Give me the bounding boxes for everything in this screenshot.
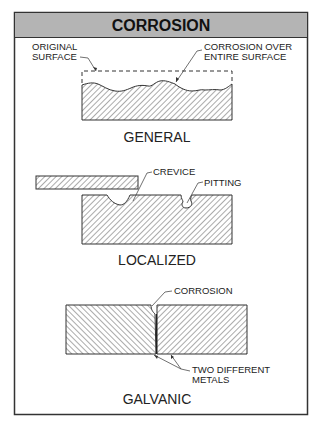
metal-b-block	[157, 305, 247, 354]
top-plate	[36, 176, 138, 189]
diagram-title: CORROSION	[112, 17, 211, 34]
corrosion-diagram: CORROSION ORIGINAL SURFACE CORROSION OVE…	[0, 0, 316, 431]
label-pitting: PITTING	[204, 177, 241, 188]
label-original-surface-2: SURFACE	[32, 51, 77, 62]
label-two-different-2: METALS	[192, 374, 229, 385]
lower-metal-block	[82, 195, 232, 244]
caption-localized: LOCALIZED	[118, 252, 196, 268]
label-crevice: CREVICE	[153, 166, 195, 177]
label-corrosion-over-2: ENTIRE SURFACE	[204, 51, 286, 62]
metal-a-block	[66, 305, 156, 354]
caption-general: GENERAL	[124, 129, 191, 145]
caption-galvanic: GALVANIC	[123, 391, 192, 407]
label-galvanic-corrosion: CORROSION	[174, 285, 233, 296]
